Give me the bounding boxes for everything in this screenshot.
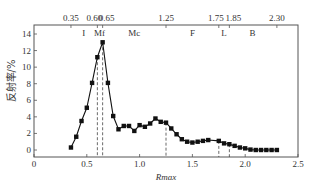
y-tick-label: 14 (22, 29, 32, 39)
data-point-marker (159, 120, 163, 124)
data-point-marker (137, 123, 141, 127)
data-point-marker (195, 140, 199, 144)
y-tick-label: 12 (22, 46, 31, 56)
region-label: L (221, 28, 227, 38)
top-tick-label: 2.30 (269, 13, 285, 23)
x-tick-label: 0 (32, 159, 37, 169)
y-tick-label: 4 (27, 112, 32, 122)
x-axis-title: Rmax (155, 172, 177, 182)
data-point-marker (264, 148, 268, 152)
top-tick-label: 1.25 (158, 13, 174, 23)
y-tick-label: 10 (22, 62, 32, 72)
data-point-marker (254, 148, 258, 152)
region-label: Mf (94, 28, 105, 38)
data-point-marker (190, 140, 194, 144)
data-point-marker (127, 124, 131, 128)
data-point-marker (74, 135, 78, 139)
y-tick-label: 0 (27, 145, 32, 155)
data-point-marker (153, 116, 157, 120)
data-point-marker (269, 148, 273, 152)
data-point-marker (79, 119, 83, 123)
region-label: Mc (128, 28, 140, 38)
data-point-marker (85, 106, 89, 110)
data-point-marker (185, 140, 189, 144)
data-point-marker (227, 142, 231, 146)
data-point-marker (174, 132, 178, 136)
data-point-marker (116, 127, 120, 131)
data-point-marker (95, 55, 99, 59)
data-point-marker (222, 141, 226, 145)
series-line (71, 42, 277, 150)
data-point-marker (259, 148, 263, 152)
data-point-marker (111, 114, 115, 118)
x-tick-label: 2.5 (292, 159, 304, 169)
x-tick-label: 2.0 (240, 159, 252, 169)
data-point-marker (248, 147, 252, 151)
data-point-marker (243, 146, 247, 150)
data-point-marker (106, 81, 110, 85)
plot-frame (34, 25, 298, 157)
x-tick-label: 1.0 (134, 159, 146, 169)
x-tick-label: 1.5 (187, 159, 199, 169)
x-tick-label: 0.5 (81, 159, 93, 169)
plot-border (34, 25, 298, 157)
y-axis-title: 反射率/% (5, 60, 17, 103)
top-tick-label: 1.85 (225, 13, 241, 23)
data-point-marker (169, 126, 173, 130)
data-point-marker (69, 145, 73, 149)
y-tick-label: 6 (27, 95, 32, 105)
data-point-marker (275, 148, 279, 152)
data-point-marker (238, 145, 242, 149)
data-point-marker (143, 125, 147, 129)
data-point-marker (90, 81, 94, 85)
top-tick-label: 1.75 (208, 13, 224, 23)
data-point-marker (164, 120, 168, 124)
region-label: I (82, 28, 85, 38)
data-point-marker (232, 144, 236, 148)
data-point-marker (122, 124, 126, 128)
data-point-marker (217, 139, 221, 143)
region-label: F (190, 28, 195, 38)
data-point-marker (180, 137, 184, 141)
data-point-marker (100, 40, 104, 44)
y-tick-label: 2 (27, 128, 32, 138)
data-series (69, 40, 279, 152)
top-tick-label: 0.35 (63, 13, 79, 23)
data-point-marker (201, 139, 205, 143)
data-point-marker (206, 138, 210, 142)
data-point-marker (132, 129, 136, 133)
y-tick-label: 8 (27, 79, 32, 89)
data-point-marker (148, 121, 152, 125)
reflectance-chart: 00.51.01.52.02.5024681012140.350.600.651… (0, 0, 313, 185)
region-label: B (250, 28, 256, 38)
top-tick-label: 0.65 (99, 13, 115, 23)
